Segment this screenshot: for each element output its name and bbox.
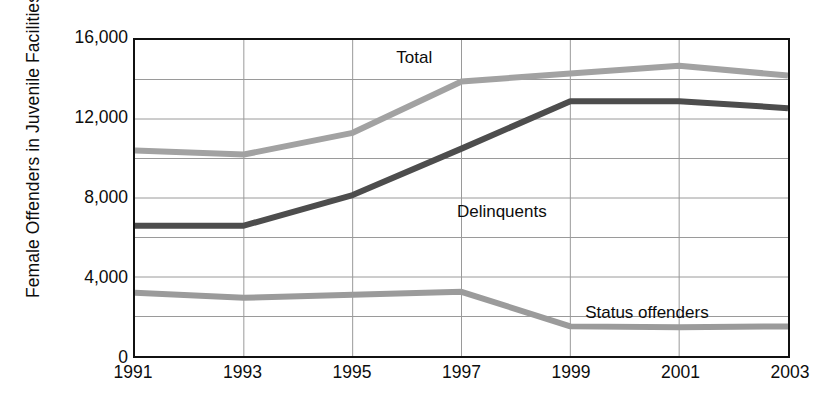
plot-area: TotalDelinquentsStatus offenders: [133, 38, 790, 358]
x-tick-label: 2003: [745, 362, 814, 382]
series-label: Delinquents: [457, 202, 547, 222]
x-tick-label: 1995: [307, 362, 397, 382]
y-axis-tick-labels: 16,00012,0008,0004,0000: [40, 0, 128, 408]
x-axis-tick-labels: 1991199319951997199920012003: [0, 362, 807, 394]
x-tick-label: 1997: [417, 362, 507, 382]
x-tick-label: 1993: [198, 362, 288, 382]
y-tick-label: 16,000: [44, 29, 128, 47]
x-tick-label: 2001: [636, 362, 726, 382]
series-line: [135, 66, 788, 155]
y-tick-label: 12,000: [44, 109, 128, 127]
series-label: Total: [396, 48, 432, 68]
y-tick-label: 8,000: [44, 189, 128, 207]
y-tick-label: 4,000: [44, 269, 128, 287]
x-tick-label: 1991: [88, 362, 178, 382]
x-tick-label: 1999: [526, 362, 616, 382]
series-label: Status offenders: [585, 303, 709, 323]
